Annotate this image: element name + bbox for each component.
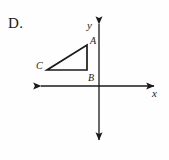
- figure-container: D. y x A B C: [0, 0, 169, 160]
- coordinate-plane-diagram: [0, 0, 169, 160]
- vertex-label-a: A: [90, 36, 96, 46]
- vertex-label-b: B: [88, 73, 94, 83]
- triangle-abc: [47, 45, 87, 70]
- choice-letter-label: D.: [8, 16, 23, 31]
- x-axis-label: x: [152, 88, 157, 99]
- y-axis-label: y: [87, 20, 92, 31]
- vertex-label-c: C: [36, 61, 43, 71]
